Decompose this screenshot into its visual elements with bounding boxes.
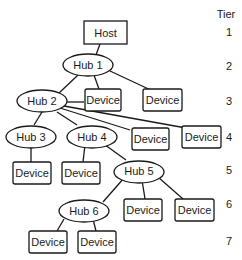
device-label: Device [31,236,65,248]
device-node: Device [62,162,100,184]
hub-5-label: Hub 5 [124,165,153,177]
hub-3-label: Hub 3 [16,131,45,143]
hub-1-label: Hub 1 [73,59,102,71]
device-node: Device [124,199,162,221]
device-label: Device [126,204,160,216]
tier-number: 6 [226,198,232,210]
device-node: Device [175,199,214,221]
hub-5-node: Hub 5 [114,161,164,183]
device-node: Device [85,89,121,111]
tier-number: 3 [226,95,232,107]
hub-2-label: Hub 2 [27,95,56,107]
tier-number: 1 [226,26,232,38]
device-label: Device [86,94,120,106]
hub-4-node: Hub 4 [67,126,117,148]
host-label: Host [94,27,117,39]
usb-tier-diagram: Host Hub 1 Hub 2 Hub 3 Hub 4 Hub 5 Hub 6… [0,0,242,260]
host-node: Host [84,21,127,44]
device-node: Device [132,128,169,150]
hub-1-node: Hub 1 [63,54,113,76]
hub-4-label: Hub 4 [77,131,106,143]
device-label: Device [178,204,212,216]
tier-header: Tier [217,8,236,20]
device-label: Device [80,236,114,248]
device-label: Device [15,167,49,179]
hub-3-node: Hub 3 [6,126,56,148]
tier-number: 7 [226,235,232,247]
device-node: Device [29,231,67,253]
tier-number: 5 [226,164,232,176]
device-label: Device [146,94,180,106]
tier-number: 2 [226,60,232,72]
device-node: Device [143,89,182,111]
hub-6-node: Hub 6 [59,200,109,222]
hub-2-node: Hub 2 [17,90,67,112]
device-label: Device [64,167,98,179]
tier-number: 4 [226,131,232,143]
device-label: Device [185,131,219,143]
device-node: Device [78,231,116,253]
hub-6-label: Hub 6 [69,205,98,217]
device-node: Device [13,162,51,184]
device-node: Device [182,126,221,148]
device-label: Device [134,133,168,145]
